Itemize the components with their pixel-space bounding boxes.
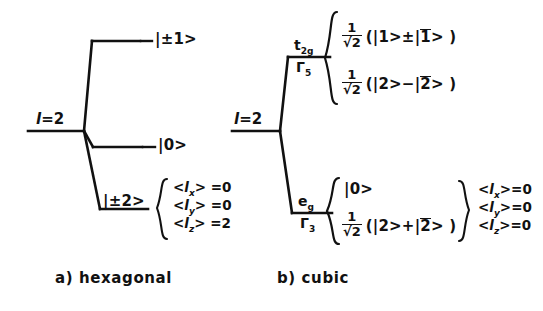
cubic-t2g-state-1-numerator: 1 xyxy=(342,21,362,36)
cubic-branch-lower xyxy=(280,131,292,213)
cubic-exp-ly-val: 0 xyxy=(522,199,531,215)
cubic-t2g-state-1-expression: (|1>±|1> ) xyxy=(362,28,457,45)
cubic-irrep-gamma3-subscript: 3 xyxy=(309,224,315,234)
cubic-term-eg-subscript: g xyxy=(308,202,314,212)
cubic-t2g-state-1-prefactor: 1 √2 xyxy=(342,21,362,49)
cubic-exp-lx-sub: x xyxy=(494,190,500,200)
cubic-eg-state-1: |0> xyxy=(344,182,373,197)
level-lines-svg xyxy=(0,0,543,311)
cubic-t2g-states-brace xyxy=(320,10,340,106)
hex-expectation-ly: <ly> =0 xyxy=(173,199,232,216)
hex-ket-0: |0> xyxy=(158,138,187,153)
cubic-t2g-state-2-bar-digit: 2 xyxy=(420,76,431,92)
hex-parent-value: 2 xyxy=(54,110,64,128)
cubic-parent-value: 2 xyxy=(252,110,262,128)
cubic-eg-state-2-bar-digit: 2 xyxy=(420,218,431,234)
cubic-parent-label: l=2 xyxy=(234,112,262,127)
cubic-eg-state-2: 1 √2 (|2>+|2> ) xyxy=(342,209,456,239)
hex-exp-lx-sub: x xyxy=(189,188,195,198)
cubic-t2g-state-1-open: (|1> xyxy=(366,28,402,46)
cubic-exp-lz-sub: z xyxy=(494,226,499,236)
cubic-eg-states-brace xyxy=(322,176,342,246)
cubic-eg-state-2-expression: (|2>+|2> ) xyxy=(362,217,457,234)
hex-panel-caption: a) hexagonal xyxy=(55,271,172,286)
cubic-t2g-state-2-denominator: √2 xyxy=(342,83,362,97)
cubic-t2g-state-1-bar-digit: 1 xyxy=(420,29,431,45)
cubic-irrep-gamma3-symbol: Γ xyxy=(300,215,309,231)
cubic-t2g-state-2-numerator: 1 xyxy=(342,68,362,83)
hex-parent-label: l=2 xyxy=(36,112,64,127)
cubic-term-t2g: t2g xyxy=(294,38,313,56)
cubic-expectation-ly: <ly>=0 xyxy=(478,201,532,218)
cubic-irrep-gamma3: Γ3 xyxy=(300,216,315,234)
hex-exp-lx-val: 0 xyxy=(222,179,231,195)
cubic-t2g-state-1-sign: ± xyxy=(402,28,415,46)
cubic-t2g-state-2-sign: − xyxy=(402,75,415,93)
cubic-t2g-state-2: 1 √2 (|2>−|2> ) xyxy=(342,67,456,97)
cubic-t2g-state-2-open: (|2> xyxy=(366,75,402,93)
hex-branch-upper xyxy=(84,41,92,131)
hex-exp-ly-val: 0 xyxy=(222,197,231,213)
hex-expectation-lz: <lz> =2 xyxy=(173,217,231,234)
hex-expectation-brace xyxy=(152,178,170,240)
cubic-expectation-brace xyxy=(456,180,474,242)
cubic-irrep-gamma5-symbol: Γ xyxy=(296,59,305,75)
energy-level-diagram-figure: l=2 |±1> |0> |±2> <lx> =0 <ly> =0 <lz> =… xyxy=(0,0,543,311)
cubic-eg-state-2-numerator: 1 xyxy=(342,210,362,225)
cubic-t2g-state-2-prefactor: 1 √2 xyxy=(342,68,362,96)
hex-exp-lz-val: 2 xyxy=(222,215,231,231)
cubic-eg-state-2-open: (|2> xyxy=(366,217,402,235)
cubic-irrep-gamma5: Γ5 xyxy=(296,60,311,78)
cubic-term-t2g-subscript: 2g xyxy=(301,46,314,56)
cubic-branch-upper xyxy=(280,57,288,131)
cubic-expectation-lz: <lz>=0 xyxy=(478,219,531,236)
cubic-exp-lz-val: 0 xyxy=(522,217,531,233)
cubic-term-t2g-symbol: t xyxy=(294,37,301,53)
cubic-panel-caption: b) cubic xyxy=(277,271,349,286)
cubic-eg-state-2-denominator: √2 xyxy=(342,225,362,239)
cubic-term-eg-symbol: e xyxy=(298,193,308,209)
hex-parent-equals: = xyxy=(41,110,54,128)
cubic-expectation-lx: <lx>=0 xyxy=(478,183,532,200)
cubic-exp-lx-val: 0 xyxy=(522,181,531,197)
cubic-t2g-state-1-denominator: √2 xyxy=(342,36,362,50)
cubic-t2g-state-2-expression: (|2>−|2> ) xyxy=(362,75,457,92)
cubic-parent-equals: = xyxy=(239,110,252,128)
hex-expectation-lx: <lx> =0 xyxy=(173,181,232,198)
hex-exp-lz-sub: z xyxy=(189,224,194,234)
cubic-eg-state-2-prefactor: 1 √2 xyxy=(342,210,362,238)
hex-ket-pm1: |±1> xyxy=(155,32,197,47)
cubic-eg-state-2-sign: + xyxy=(402,217,415,235)
cubic-t2g-state-1: 1 √2 (|1>±|1> ) xyxy=(342,20,456,50)
hex-ket-pm2: |±2> xyxy=(103,194,145,209)
cubic-term-eg: eg xyxy=(298,194,314,212)
cubic-irrep-gamma5-subscript: 5 xyxy=(305,68,311,78)
